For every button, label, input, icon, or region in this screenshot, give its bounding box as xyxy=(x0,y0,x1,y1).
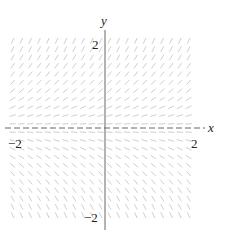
x-tick-neg2: −2 xyxy=(8,136,22,151)
slope-segment xyxy=(90,80,94,85)
slope-segment xyxy=(133,106,139,109)
slope-segment xyxy=(36,132,42,133)
slope-segment xyxy=(143,179,147,184)
slope-segment xyxy=(28,163,33,167)
slope-segment xyxy=(81,72,85,77)
slope-segment xyxy=(151,97,156,101)
slope-segment xyxy=(177,115,183,117)
x-tick-2: 2 xyxy=(191,136,198,151)
slope-segment xyxy=(62,140,68,142)
slope-segment xyxy=(36,106,42,109)
slope-segment xyxy=(89,89,94,93)
slope-segment xyxy=(177,147,183,150)
slope-segment xyxy=(143,188,147,193)
slope-segment xyxy=(46,55,49,60)
slope-segment xyxy=(150,124,156,125)
slope-segment xyxy=(46,212,49,218)
slope-segment xyxy=(142,163,147,167)
y-axis-label: y xyxy=(99,13,107,28)
slope-segment xyxy=(10,80,14,85)
slope-segment xyxy=(107,80,111,85)
slope-segment xyxy=(97,124,103,125)
slope-segment xyxy=(45,155,50,159)
slope-segment xyxy=(168,106,174,109)
slope-segment xyxy=(178,204,181,210)
slope-segment xyxy=(116,97,121,101)
slope-segment xyxy=(27,132,33,133)
slope-segment xyxy=(115,106,121,109)
slope-segment xyxy=(46,80,50,85)
slope-segment xyxy=(160,97,165,101)
slope-segment xyxy=(28,171,32,176)
slope-segment xyxy=(9,124,15,125)
slope-segment xyxy=(81,188,85,193)
slope-segment xyxy=(54,163,59,167)
slope-segment xyxy=(186,171,190,176)
slope-segment xyxy=(169,204,172,210)
slope-segment xyxy=(169,196,172,201)
slope-segment xyxy=(161,212,164,218)
slope-segment xyxy=(28,155,33,159)
slope-segment xyxy=(72,155,77,159)
slope-segment xyxy=(150,115,156,117)
slope-segment xyxy=(98,115,104,117)
slope-segment xyxy=(98,106,104,109)
slope-segment xyxy=(81,171,85,176)
slope-segment xyxy=(53,132,59,133)
slope-segment xyxy=(80,155,85,159)
slope-segment xyxy=(178,63,182,68)
slope-segment xyxy=(142,106,148,109)
slope-segment xyxy=(55,46,58,52)
slope-segment xyxy=(90,204,93,210)
slope-segment xyxy=(71,124,77,125)
slope-segment xyxy=(80,106,86,109)
slope-segment xyxy=(63,163,68,167)
slope-segment xyxy=(134,46,137,52)
slope-segment xyxy=(19,179,23,184)
slope-segment xyxy=(20,63,24,68)
slope-segment xyxy=(133,132,139,133)
slope-segment xyxy=(187,63,191,68)
slope-segment xyxy=(134,80,138,85)
slope-segment xyxy=(45,147,51,150)
slope-segment xyxy=(125,46,128,52)
slope-segment xyxy=(126,38,129,44)
slope-segment xyxy=(90,171,94,176)
slope-segment xyxy=(62,132,68,133)
slope-segment xyxy=(125,89,130,93)
slope-segment xyxy=(11,179,15,184)
slope-segment xyxy=(178,171,182,176)
slope-segment xyxy=(178,179,182,184)
slope-segment xyxy=(54,97,59,101)
slope-segment xyxy=(133,97,138,101)
slope-segment xyxy=(63,80,67,85)
slope-segment xyxy=(90,55,93,60)
slope-segment xyxy=(11,188,15,193)
slope-segment xyxy=(73,212,76,218)
slope-segment xyxy=(64,38,67,44)
slope-segment xyxy=(37,188,41,193)
slope-segment xyxy=(64,204,67,210)
slope-segment xyxy=(71,115,77,117)
slope-segment xyxy=(73,46,76,52)
slope-segment xyxy=(107,155,112,159)
slope-segment xyxy=(63,155,68,159)
slope-segment xyxy=(187,72,191,77)
slope-segment xyxy=(169,179,173,184)
slope-segment xyxy=(98,89,103,93)
slope-segment xyxy=(62,115,68,117)
slope-segment xyxy=(72,89,77,93)
slope-segment xyxy=(81,163,86,167)
slope-segment xyxy=(143,38,146,44)
slope-segment xyxy=(160,179,164,184)
slope-segment xyxy=(151,89,156,93)
slope-segment xyxy=(152,212,155,218)
slope-segment xyxy=(133,89,138,93)
slope-segment xyxy=(63,89,68,93)
slope-segment xyxy=(81,46,84,52)
slope-segment xyxy=(160,72,164,77)
slope-segment xyxy=(168,124,174,125)
slope-segment xyxy=(99,63,103,68)
slope-segment xyxy=(45,89,50,93)
slope-segment xyxy=(186,115,192,117)
